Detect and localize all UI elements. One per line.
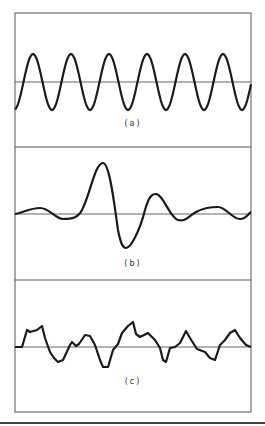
- damped-pulse-wave: [15, 163, 251, 248]
- panel-a: (a): [15, 54, 251, 128]
- panel-b: (b): [15, 163, 251, 268]
- waveform-figure: (a) (b) (c): [0, 0, 265, 426]
- panel-label-b: (b): [124, 259, 141, 268]
- irregular-wave: [15, 322, 251, 367]
- panel-label-c: (c): [125, 377, 142, 386]
- panel-c: (c): [15, 322, 251, 386]
- panel-label-a: (a): [124, 119, 141, 128]
